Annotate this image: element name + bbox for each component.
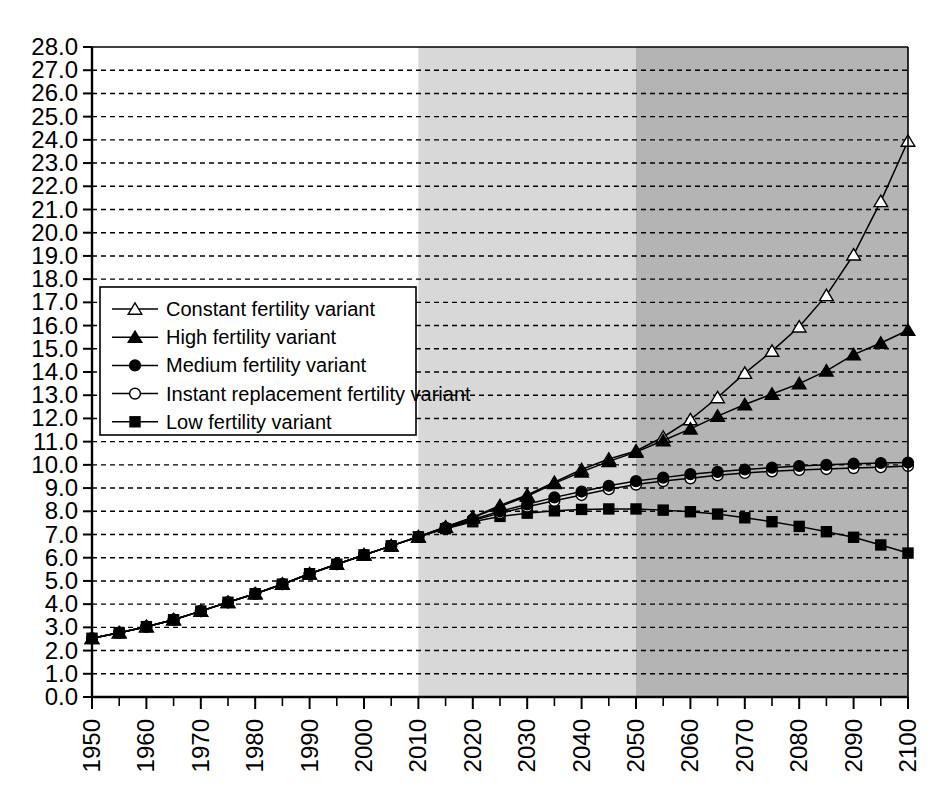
x-tick-label: 2080 bbox=[785, 719, 812, 772]
data-point-marker bbox=[386, 540, 397, 551]
legend-label: Constant fertility variant bbox=[166, 298, 375, 320]
y-tick-label: 22.0 bbox=[31, 172, 78, 199]
y-tick-label: 11.0 bbox=[33, 428, 78, 455]
y-tick-label: 23.0 bbox=[31, 149, 78, 176]
data-point-marker bbox=[712, 466, 723, 477]
y-tick-label: 19.0 bbox=[31, 242, 78, 269]
y-tick-label: 12.0 bbox=[31, 404, 78, 431]
x-tick-label: 2100 bbox=[894, 719, 921, 772]
data-point-marker bbox=[195, 606, 206, 617]
x-tick-label: 2000 bbox=[350, 719, 377, 772]
legend-label: High fertility variant bbox=[166, 326, 337, 348]
data-point-marker bbox=[467, 514, 478, 525]
data-point-marker bbox=[277, 579, 288, 590]
data-point-marker bbox=[331, 559, 342, 570]
data-point-marker bbox=[848, 458, 859, 469]
y-tick-label: 9.0 bbox=[45, 474, 78, 501]
data-point-marker bbox=[114, 627, 125, 638]
data-point-marker bbox=[767, 462, 778, 473]
legend-item[interactable]: Instant replacement fertility variant bbox=[112, 383, 471, 405]
data-point-marker bbox=[359, 550, 370, 561]
data-point-marker bbox=[849, 532, 859, 542]
y-tick-label: 17.0 bbox=[31, 288, 78, 315]
x-tick-label: 2090 bbox=[840, 719, 867, 772]
data-point-marker bbox=[168, 614, 179, 625]
y-tick-label: 3.0 bbox=[45, 613, 78, 640]
data-point-marker bbox=[740, 513, 750, 523]
data-point-marker bbox=[549, 492, 560, 503]
legend-label: Medium fertility variant bbox=[166, 354, 367, 376]
y-tick-label: 6.0 bbox=[45, 544, 78, 571]
x-tick-label: 1950 bbox=[78, 719, 105, 772]
y-tick-label: 5.0 bbox=[45, 567, 78, 594]
data-point-marker bbox=[522, 499, 533, 510]
data-point-marker bbox=[577, 504, 587, 514]
data-point-marker bbox=[549, 506, 559, 516]
y-tick-label: 13.0 bbox=[31, 381, 78, 408]
y-tick-label: 0.0 bbox=[45, 683, 78, 710]
y-tick-label: 10.0 bbox=[31, 451, 78, 478]
y-tick-label: 4.0 bbox=[45, 590, 78, 617]
y-tick-label: 15.0 bbox=[31, 335, 78, 362]
y-axis-ticks: 0.01.02.03.04.05.06.07.08.09.010.011.012… bbox=[31, 33, 92, 710]
chart-page: 0.01.02.03.04.05.06.07.08.09.010.011.012… bbox=[0, 0, 938, 796]
data-point-marker bbox=[130, 388, 141, 399]
y-tick-label: 26.0 bbox=[31, 79, 78, 106]
data-point-marker bbox=[223, 597, 234, 608]
y-tick-label: 28.0 bbox=[31, 33, 78, 60]
y-tick-label: 18.0 bbox=[31, 265, 78, 292]
x-tick-label: 1960 bbox=[132, 719, 159, 772]
x-tick-label: 1980 bbox=[241, 719, 268, 772]
x-tick-label: 2060 bbox=[676, 719, 703, 772]
y-tick-label: 2.0 bbox=[45, 637, 78, 664]
x-tick-label: 2040 bbox=[568, 719, 595, 772]
x-tick-label: 1970 bbox=[187, 719, 214, 772]
data-point-marker bbox=[631, 504, 641, 514]
data-point-marker bbox=[767, 517, 777, 527]
data-point-marker bbox=[495, 506, 506, 517]
data-point-marker bbox=[794, 521, 804, 531]
data-point-marker bbox=[685, 469, 696, 480]
x-tick-label: 2010 bbox=[404, 719, 431, 772]
legend-label: Instant replacement fertility variant bbox=[166, 383, 471, 405]
population-projection-chart: 0.01.02.03.04.05.06.07.08.09.010.011.012… bbox=[0, 0, 938, 796]
data-point-marker bbox=[130, 360, 141, 371]
x-axis-ticks: 1950196019701980199020002010202020302040… bbox=[78, 697, 921, 772]
y-tick-label: 14.0 bbox=[31, 358, 78, 385]
x-tick-label: 2050 bbox=[622, 719, 649, 772]
data-point-marker bbox=[658, 472, 669, 483]
data-point-marker bbox=[576, 486, 587, 497]
data-point-marker bbox=[413, 531, 424, 542]
data-point-marker bbox=[604, 504, 614, 514]
y-tick-label: 20.0 bbox=[31, 219, 78, 246]
x-tick-label: 2070 bbox=[731, 719, 758, 772]
y-tick-label: 7.0 bbox=[45, 521, 78, 548]
legend-label: Low fertility variant bbox=[166, 411, 332, 433]
y-tick-label: 16.0 bbox=[31, 312, 78, 339]
data-point-marker bbox=[821, 527, 831, 537]
data-point-marker bbox=[794, 461, 805, 472]
legend: Constant fertility variantHigh fertility… bbox=[100, 287, 471, 435]
data-point-marker bbox=[685, 507, 695, 517]
x-tick-label: 2030 bbox=[513, 719, 540, 772]
y-tick-label: 8.0 bbox=[45, 497, 78, 524]
x-tick-label: 2020 bbox=[459, 719, 486, 772]
data-point-marker bbox=[440, 522, 451, 533]
data-point-marker bbox=[713, 509, 723, 519]
x-tick-label: 1990 bbox=[296, 719, 323, 772]
data-point-marker bbox=[603, 480, 614, 491]
data-point-marker bbox=[876, 540, 886, 550]
data-point-marker bbox=[304, 568, 315, 579]
y-tick-label: 25.0 bbox=[31, 103, 78, 130]
data-point-marker bbox=[141, 621, 152, 632]
data-point-marker bbox=[250, 588, 261, 599]
data-point-marker bbox=[739, 464, 750, 475]
y-tick-label: 27.0 bbox=[31, 56, 78, 83]
data-point-marker bbox=[130, 417, 140, 427]
data-point-marker bbox=[658, 505, 668, 515]
data-point-marker bbox=[631, 476, 642, 487]
data-point-marker bbox=[875, 458, 886, 469]
y-tick-label: 1.0 bbox=[45, 660, 78, 687]
y-tick-label: 24.0 bbox=[31, 126, 78, 153]
y-tick-label: 21.0 bbox=[31, 196, 78, 223]
